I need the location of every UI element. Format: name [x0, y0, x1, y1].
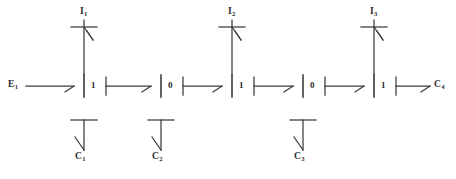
- top-input-label-2: I2: [228, 7, 235, 17]
- input-label-e1: E1: [8, 80, 18, 90]
- top-input-label-1: I1: [80, 7, 87, 17]
- node-value-2: 1: [239, 81, 244, 90]
- node-value-3: 0: [310, 81, 315, 90]
- top-input-label-3: I3: [370, 7, 377, 17]
- node-value-1: 0: [168, 81, 173, 90]
- diagram-canvas: 10101E1C4I1I2I3C1C2C3: [0, 0, 456, 179]
- diagram-vector-layer: [0, 0, 456, 179]
- bottom-output-label-3: C3: [294, 152, 304, 162]
- node-value-0: 1: [91, 81, 96, 90]
- bottom-output-label-2: C2: [152, 152, 162, 162]
- output-label-c4: C4: [434, 80, 444, 90]
- diagram-strokes: [26, 20, 430, 150]
- node-value-4: 1: [381, 81, 386, 90]
- bottom-output-label-1: C1: [75, 152, 85, 162]
